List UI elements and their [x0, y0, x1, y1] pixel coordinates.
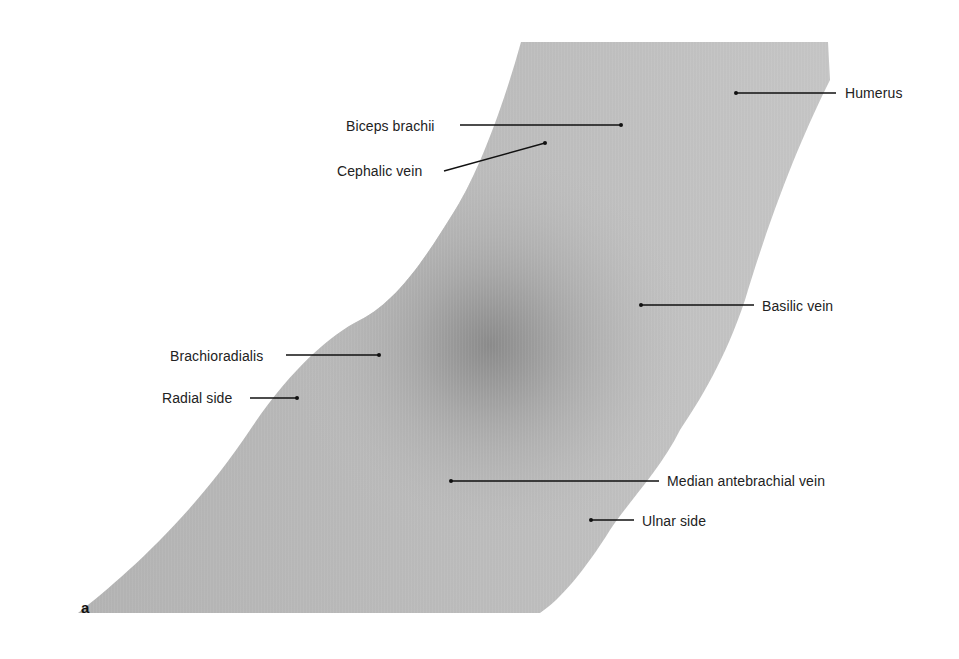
arm-illustration	[0, 0, 959, 659]
leader-dot-cephalic-vein	[543, 141, 547, 145]
label-ulnar-side: Ulnar side	[642, 513, 706, 529]
label-cephalic-vein: Cephalic vein	[337, 163, 422, 179]
label-radial-side: Radial side	[162, 390, 232, 406]
label-median-antebrachial-vein: Median antebrachial vein	[667, 473, 825, 489]
panel-letter: a	[81, 599, 89, 616]
leader-dot-radial-side	[295, 396, 299, 400]
leader-dot-biceps-brachii	[619, 123, 623, 127]
anatomy-figure: a Humerus Biceps brachii Cephalic vein B…	[0, 0, 959, 659]
leader-dot-basilic-vein	[639, 303, 643, 307]
leader-dot-brachioradialis	[377, 353, 381, 357]
label-brachioradialis: Brachioradialis	[170, 348, 263, 364]
label-humerus: Humerus	[845, 85, 903, 101]
leader-dot-humerus	[734, 91, 738, 95]
label-basilic-vein: Basilic vein	[762, 298, 833, 314]
leader-dot-median-antebrachial-vein	[449, 479, 453, 483]
label-biceps-brachii: Biceps brachii	[346, 118, 435, 134]
leader-dot-ulnar-side	[589, 518, 593, 522]
